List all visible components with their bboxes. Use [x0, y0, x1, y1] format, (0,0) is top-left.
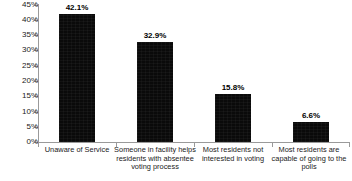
- y-axis-tick-label: 5%: [8, 123, 38, 131]
- y-axis-tick-label: 40%: [8, 16, 38, 24]
- y-axis-tick-label: 25%: [8, 62, 38, 70]
- x-axis-category-label: Someone in facility helps residents with…: [113, 146, 197, 172]
- bar-capable-of-going-to-polls: [293, 122, 329, 142]
- y-axis-tick-label: 20%: [8, 77, 38, 85]
- x-axis-category-label: Most residents are capable of going to t…: [265, 146, 352, 172]
- bar-unaware-of-service: [59, 14, 95, 142]
- bar-facility-helps-absentee: [137, 42, 173, 142]
- x-axis-category-label: Unaware of Service: [33, 146, 121, 155]
- x-axis-category-label: Most residents not interested in voting: [189, 146, 277, 163]
- bar-not-interested-in-voting: [215, 94, 251, 142]
- bar-chart: 45% 40% 35% 30% 25% 20% 15% 10%: [0, 0, 352, 181]
- y-axis-tick-label: 10%: [8, 108, 38, 116]
- y-axis-tick-label: 30%: [8, 46, 38, 54]
- bar-value-label: 6.6%: [286, 112, 336, 120]
- y-axis-tick-label: 15%: [8, 92, 38, 100]
- y-axis-tick-label: 0%: [8, 138, 38, 146]
- bar-value-label: 32.9%: [130, 32, 180, 40]
- y-axis-tick-label: 45%: [8, 1, 38, 9]
- y-axis-line: [38, 4, 39, 143]
- bar-value-label: 15.8%: [208, 84, 258, 92]
- bar-value-label: 42.1%: [52, 4, 102, 12]
- y-axis-tick-label: 35%: [8, 31, 38, 39]
